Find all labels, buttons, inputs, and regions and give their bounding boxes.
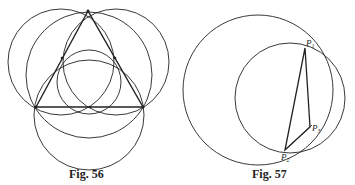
fig56-circumcircle	[26, 12, 152, 138]
fig56-circle-bottom	[34, 60, 144, 170]
fig57-triangle	[285, 48, 310, 150]
fig57-diagram	[183, 15, 345, 165]
fig56-triangle	[36, 11, 143, 107]
fig56-caption: Fig. 56	[69, 167, 104, 182]
label-p2: P2	[280, 152, 290, 163]
figure-canvas: P1 P2 P3	[0, 0, 355, 185]
fig57-circle-small	[235, 43, 345, 153]
fig57-caption: Fig. 57	[252, 167, 287, 182]
fig56-diagram	[8, 9, 169, 170]
label-p3: P3	[311, 123, 321, 134]
